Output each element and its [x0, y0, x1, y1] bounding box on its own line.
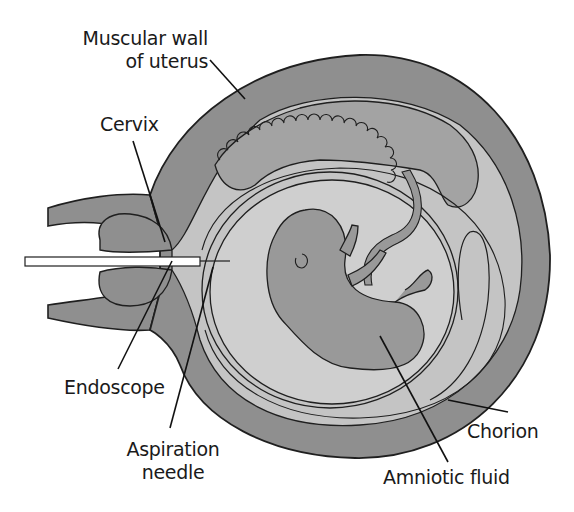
label-muscular-wall-line1: Muscular wall	[58, 27, 208, 50]
label-muscular-wall: Muscular wall of uterus	[58, 27, 208, 73]
label-cervix: Cervix	[100, 113, 159, 136]
endoscope	[25, 257, 230, 266]
label-muscular-wall-line2: of uterus	[58, 50, 208, 73]
label-aspiration-line1: Aspiration	[118, 438, 228, 461]
label-amniotic-fluid: Amniotic fluid	[383, 466, 510, 489]
label-endoscope: Endoscope	[64, 376, 165, 399]
label-aspiration-needle: Aspiration needle	[118, 438, 228, 484]
label-chorion: Chorion	[467, 420, 539, 443]
label-aspiration-line2: needle	[118, 461, 228, 484]
